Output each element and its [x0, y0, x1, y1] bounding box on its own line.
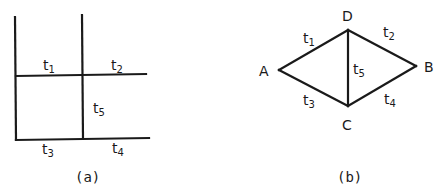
- caption-b: (b): [337, 169, 362, 185]
- caption-a: (a): [75, 169, 100, 185]
- label-t2: t2: [383, 24, 395, 42]
- label-t5: t5: [353, 61, 365, 79]
- top-horizontal-line: [16, 74, 146, 76]
- label-t2: t2: [111, 57, 123, 75]
- figure-canvas: t1 t2 t5 t3 t4 (a) A D B C t1 t2 t3 t4 t…: [0, 0, 448, 193]
- label-t4: t4: [112, 140, 124, 158]
- node-A: A: [259, 63, 269, 79]
- bottom-horizontal-line: [16, 138, 149, 140]
- node-D: D: [342, 8, 353, 24]
- edge-t1: [279, 30, 348, 70]
- label-t5: t5: [93, 100, 105, 118]
- node-C: C: [342, 117, 352, 133]
- left-vertical-line: [15, 17, 16, 140]
- middle-vertical-line: [82, 15, 83, 139]
- node-B: B: [424, 59, 434, 75]
- label-t1: t1: [43, 57, 55, 75]
- label-t3: t3: [303, 92, 315, 110]
- label-t3: t3: [42, 141, 54, 159]
- figure-a: t1 t2 t5 t3 t4 (a): [15, 15, 149, 185]
- figure-b: A D B C t1 t2 t3 t4 t5 (b): [259, 8, 434, 185]
- label-t4: t4: [384, 91, 396, 109]
- label-t1: t1: [303, 30, 315, 48]
